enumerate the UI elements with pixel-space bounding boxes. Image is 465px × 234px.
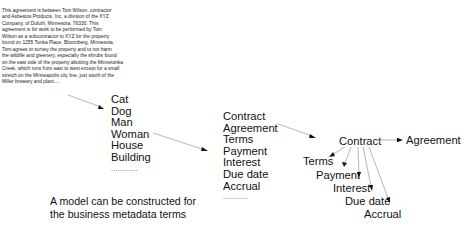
source-text-line: found on 1255 Tonka Place, Bloomberg, Mi… [2, 40, 127, 46]
connector-line [345, 147, 351, 163]
business-term: Contract [223, 111, 278, 123]
generic-terms-list: Cat Dog Man Woman House Building .......… [111, 94, 151, 174]
source-agreement-text: This agreement is between Tom Wilson, co… [2, 8, 127, 85]
generic-terms-ellipsis: ............ [111, 164, 151, 174]
business-term: Accrual [223, 181, 278, 193]
connector-line [332, 147, 345, 155]
source-text-line: the wildlife and greenery, especially th… [2, 53, 127, 59]
arrow-generic-to-business-terms [153, 133, 208, 151]
model-synonym-node: Agreement [406, 134, 461, 146]
arrow-contract-to-payment [342, 147, 351, 167]
arrow-business-terms-to-model [278, 124, 316, 138]
model-child-node: Interest [333, 182, 370, 194]
connector-line [153, 133, 205, 150]
model-child-node: Accrual [364, 208, 401, 220]
generic-term: Cat [111, 94, 151, 106]
arrow-text-to-generic-terms [68, 95, 104, 109]
arrow-contract-to-agreement [378, 138, 403, 142]
model-child-node: Payment [316, 169, 360, 181]
business-terms-ellipsis: ........... [223, 192, 278, 202]
arrowhead-icon [98, 105, 104, 109]
connector-line [278, 124, 312, 136]
connector-line [363, 147, 371, 186]
business-term: Due date [223, 169, 278, 181]
diagram-caption: A model can be constructed for the busin… [50, 195, 196, 221]
caption-line: A model can be constructed for [50, 195, 196, 208]
generic-term: Building [111, 152, 151, 164]
model-root-node: Contract [339, 135, 381, 147]
arrowhead-icon [342, 162, 347, 167]
arrowhead-icon [201, 147, 208, 151]
source-text-line: and Asbestos Products, Inc, a division o… [2, 14, 127, 20]
caption-line: the business metadata terms [50, 208, 196, 221]
source-text-line: Miller brewery and plant..... [2, 79, 127, 85]
business-terms-list: Contract Agreement Terms Payment Interes… [223, 111, 278, 202]
arrowhead-icon [397, 138, 403, 142]
model-child-node: Terms [303, 155, 333, 167]
model-child-node: Due date [345, 195, 390, 207]
source-text-line: Creek, which runs from east to west exce… [2, 66, 127, 72]
arrowhead-icon [309, 134, 316, 138]
connector-line [68, 95, 101, 107]
connector-line [369, 147, 388, 198]
